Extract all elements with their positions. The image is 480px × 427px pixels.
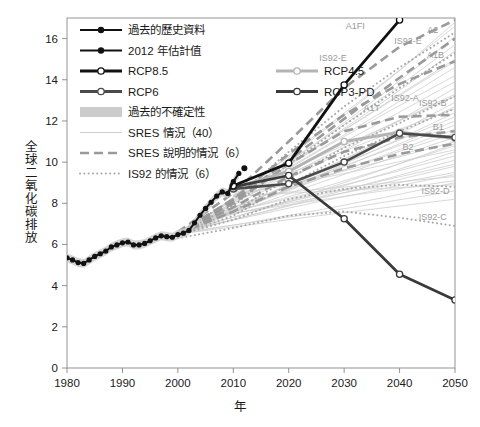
x-tick-label: 2040 (387, 377, 413, 389)
historical-marker (131, 242, 136, 247)
historical-marker (120, 240, 125, 245)
historical-marker (153, 235, 158, 240)
legend-label-rcp3pd: RCP3-PD (324, 86, 374, 98)
x-tick-label: 2020 (276, 377, 302, 389)
scenario-annotation: IS92-E (319, 53, 347, 63)
x-tick-label: 2030 (331, 377, 357, 389)
chart-canvas: 0246810121416198019902000201020202030204… (0, 0, 480, 427)
legend-label-rcp85: RCP8.5 (128, 65, 168, 77)
rcp6-marker (341, 159, 347, 165)
y-tick-label: 6 (52, 238, 58, 250)
x-tick-label: 2000 (165, 377, 191, 389)
historical-marker (236, 171, 241, 176)
scenario-annotation: IS92-A (391, 93, 419, 103)
scenario-annotation: A1T (364, 103, 381, 113)
historical-marker (75, 260, 80, 265)
y-tick-label: 10 (45, 156, 58, 168)
rcp3pd-marker (341, 216, 347, 222)
legend-swatch-uncertainty (80, 107, 122, 117)
legend-label-uncertainty: 過去的不確定性 (128, 105, 205, 118)
historical-marker (164, 234, 169, 239)
historical-marker (203, 206, 208, 211)
historical-marker (87, 257, 92, 262)
historical-marker (192, 220, 197, 225)
scenario-annotation: IS92-D (422, 186, 451, 196)
scenario-annotation: B2 (402, 142, 413, 152)
historical-marker (142, 241, 147, 246)
historical-marker (220, 189, 225, 194)
legend-label-historical: 過去的歷史資料 (128, 23, 206, 36)
historical-marker (103, 248, 108, 253)
historical-marker (64, 255, 69, 260)
scenario-annotation: IS92-B (419, 98, 447, 108)
rcp85-marker (286, 160, 292, 166)
historical-marker (175, 232, 180, 237)
historical-marker (125, 239, 130, 244)
rcp45-marker (341, 138, 347, 144)
rcp6-marker (396, 130, 402, 136)
y-tick-label: 16 (45, 33, 58, 45)
historical-marker (98, 251, 103, 256)
y-tick-label: 4 (52, 280, 59, 292)
historical-marker (148, 238, 153, 243)
historical-marker (159, 233, 164, 238)
scenario-annotation: A1B (427, 50, 444, 60)
x-tick-label: 1980 (54, 377, 80, 389)
legend-label-is92: IS92 的情況（6） (128, 167, 216, 180)
historical-marker (109, 244, 114, 249)
chart-figure: 全球二氧化碳排放 年 02468101214161980199020002010… (0, 0, 480, 427)
scenario-annotation: B1 (433, 122, 444, 132)
legend-label-estimate-2012: 2012 年估計值 (128, 44, 202, 57)
historical-marker (209, 200, 214, 205)
historical-marker (170, 235, 175, 240)
rcp3pd-marker (396, 271, 402, 277)
legend-label-sres40: SRES 情況（40） (128, 126, 219, 139)
historical-marker (231, 179, 236, 184)
historical-marker (181, 231, 186, 236)
historical-marker (70, 257, 75, 262)
y-tick-label: 14 (45, 74, 58, 86)
scenario-annotation: IS92-E (394, 36, 422, 46)
historical-marker (114, 242, 119, 247)
rcp3pd-marker (452, 297, 458, 303)
x-tick-label: 2050 (442, 377, 468, 389)
scenario-annotation: A2 (427, 25, 438, 35)
rcp6-marker (452, 134, 458, 140)
y-tick-label: 2 (52, 321, 58, 333)
scenario-annotation: A1FI (346, 21, 365, 31)
rcp3pd-marker (286, 172, 292, 178)
legend-label-sres6: SRES 說明的情況（6） (128, 146, 246, 159)
historical-marker (197, 213, 202, 218)
x-tick-label: 1990 (110, 377, 136, 389)
y-tick-label: 0 (52, 362, 58, 374)
y-tick-label: 12 (45, 115, 58, 127)
historical-marker (92, 254, 97, 259)
legend-label-rcp45: RCP4.5 (324, 65, 364, 77)
historical-marker (136, 242, 141, 247)
historical-marker (186, 228, 191, 233)
historical-marker (81, 261, 86, 266)
x-tick-label: 2010 (220, 377, 246, 389)
estimate-2012-marker (241, 165, 247, 171)
historical-marker (214, 193, 219, 198)
scenario-annotation: IS92-C (419, 212, 448, 222)
y-tick-label: 8 (52, 197, 58, 209)
legend-label-rcp6: RCP6 (128, 86, 159, 98)
historical-marker (225, 191, 230, 196)
rcp6-marker (286, 181, 292, 187)
